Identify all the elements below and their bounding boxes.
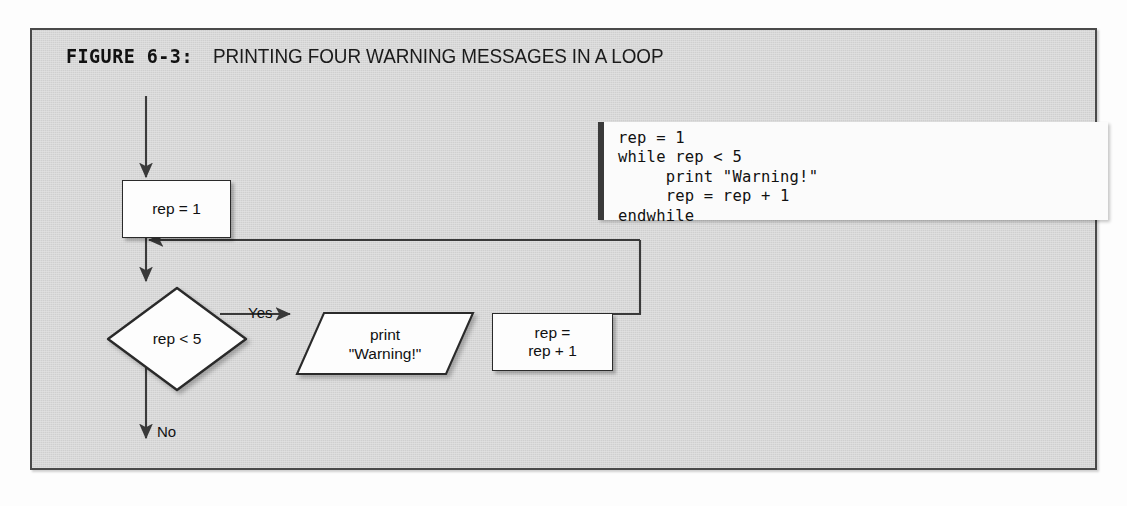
flowchart-node-decision-textwrap: rep < 5 <box>104 284 250 394</box>
flowchart-node-increment-line1: rep = <box>535 324 571 342</box>
flowchart-node-output-line2: "Warning!" <box>349 344 421 363</box>
edge-label-no: No <box>157 423 176 440</box>
flowchart-node-decision: rep < 5 <box>104 284 250 394</box>
figure-frame: FIGURE 6-3: PRINTING FOUR WARNING MESSAG… <box>30 28 1097 470</box>
flowchart-node-increment: rep = rep + 1 <box>492 313 613 371</box>
page-canvas: FIGURE 6-3: PRINTING FOUR WARNING MESSAG… <box>0 0 1127 506</box>
flowchart-node-output: print "Warning!" <box>295 311 475 376</box>
flowchart-node-output-textwrap: print "Warning!" <box>295 311 475 376</box>
flowchart-node-init: rep = 1 <box>122 180 231 238</box>
flowchart-node-increment-line2: rep + 1 <box>528 342 577 360</box>
flowchart-node-init-text: rep = 1 <box>152 200 201 218</box>
flowchart-node-increment-textwrap: rep = rep + 1 <box>528 324 577 360</box>
flowchart-node-decision-text: rep < 5 <box>153 330 202 348</box>
flowchart-connectors <box>32 30 1099 472</box>
flowchart-node-output-line1: print <box>370 325 400 344</box>
edge-label-yes: Yes <box>248 304 272 321</box>
